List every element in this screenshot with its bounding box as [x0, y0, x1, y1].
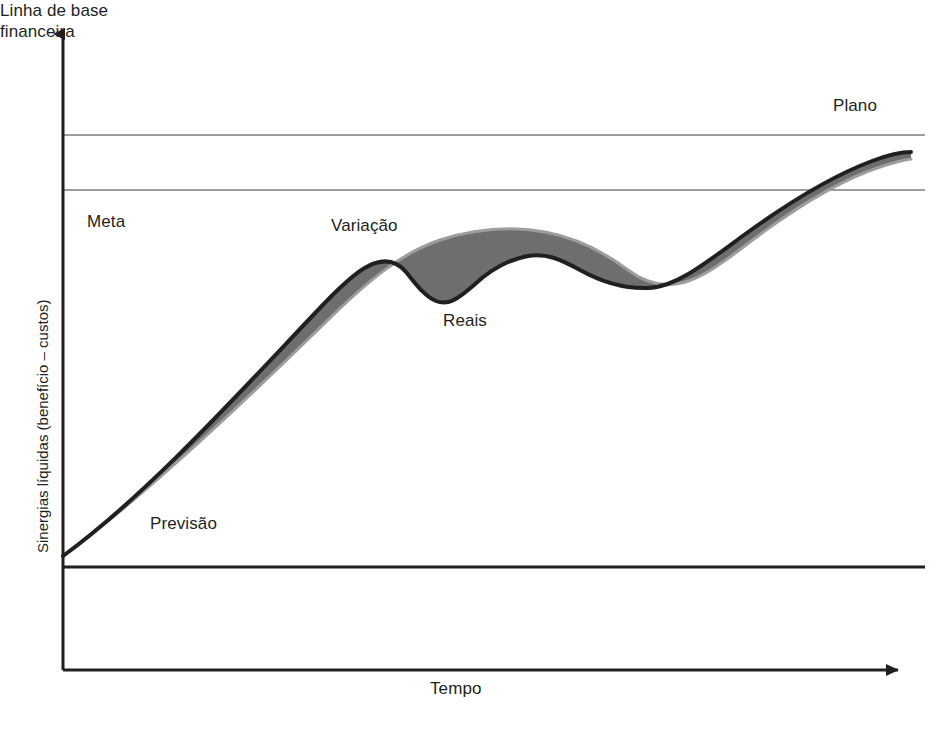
chart-canvas: [0, 0, 948, 731]
annotation-meta: Meta: [87, 211, 125, 232]
y-axis-title: Sinergias líquidas (benefício – custos): [34, 33, 51, 553]
chart-figure: Plano Meta Variação Reais Previsão Linha…: [0, 0, 948, 731]
annotation-reais: Reais: [443, 310, 487, 331]
annotation-variacao: Variação: [331, 215, 398, 236]
annotation-previsao: Previsão: [150, 513, 217, 534]
annotation-plano: Plano: [833, 95, 877, 116]
x-axis-title: Tempo: [430, 678, 482, 699]
variation-band-area: [63, 152, 911, 556]
series-line-previsao: [63, 159, 911, 556]
